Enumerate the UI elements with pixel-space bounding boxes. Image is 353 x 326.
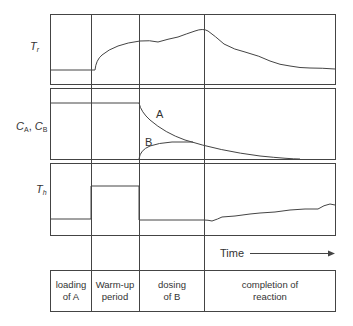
label-heating-temperature: Th xyxy=(36,183,47,196)
phase-warmup-line1: Warm-up xyxy=(96,279,135,290)
heating-temperature-curve xyxy=(50,186,335,221)
time-axis-label: Time xyxy=(220,247,244,259)
panel-concentrations xyxy=(51,89,336,160)
label-reactor-temperature: Tr xyxy=(30,40,40,53)
phase-completion-line2: reaction xyxy=(253,291,287,302)
label-concentrations: CA, CB xyxy=(16,120,48,133)
reactor-temperature-curve xyxy=(50,30,335,71)
reaction-phase-diagram: Tr CA, CB Th A B Time loading of A Warm-… xyxy=(0,0,353,326)
phase-warmup-line2: period xyxy=(102,291,128,302)
curve-label-b: B xyxy=(145,136,152,148)
panel-heating-temperature xyxy=(51,164,336,236)
time-arrow-icon xyxy=(328,251,335,257)
phase-loading-line2: of A xyxy=(63,291,80,302)
panel-reactor-temperature xyxy=(51,15,336,85)
phase-loading-line1: loading xyxy=(56,279,87,290)
curve-label-a: A xyxy=(156,108,164,120)
phase-table xyxy=(51,271,336,312)
phase-dosing-line1: dosing xyxy=(158,279,186,290)
phase-completion-line1: completion of xyxy=(242,279,299,290)
concentration-a-curve xyxy=(50,103,300,159)
phase-dosing-line2: of B xyxy=(164,291,181,302)
